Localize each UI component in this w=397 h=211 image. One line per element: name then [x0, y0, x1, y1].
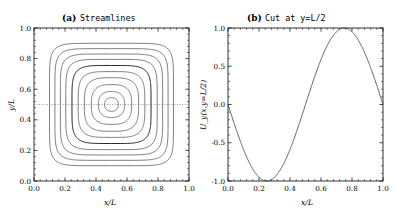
- panel-b-cut: (b) Cut at y=L/2 0.00.20.40.60.81.0-1.0-…: [197, 0, 397, 211]
- x-tick-label: 0.8: [346, 184, 358, 193]
- y-tick-label: 0.8: [20, 54, 32, 63]
- x-tick-label: 0.2: [59, 184, 70, 193]
- x-tick-label: 0.2: [253, 184, 264, 193]
- x-tick-label: 0.4: [90, 184, 102, 193]
- panel-b-plot-area: 0.00.20.40.60.81.0-1.0-0.50.00.51.0: [211, 24, 389, 193]
- panel-b-svg: (b) Cut at y=L/2 0.00.20.40.60.81.0-1.0-…: [197, 0, 397, 211]
- cut-profile-curve: [228, 28, 383, 181]
- y-tick-label: 1.0: [20, 24, 32, 33]
- y-tick-label: -0.5: [211, 138, 225, 147]
- panel-a-ylabel: y/L: [7, 99, 16, 112]
- panel-b-title: Cut at y=L/2: [265, 13, 326, 23]
- panel-a-xlabel: x/L: [104, 198, 116, 207]
- y-tick-label: 0.0: [214, 100, 226, 109]
- y-tick-label: 0.0: [20, 177, 32, 186]
- panel-a-plot-area: 0.00.20.40.60.81.00.00.20.40.60.81.0: [20, 24, 196, 193]
- x-tick-label: 0.8: [152, 184, 164, 193]
- y-tick-label: 0.5: [214, 62, 226, 71]
- x-tick-label: 0.4: [284, 184, 296, 193]
- x-tick-label: 0.6: [121, 184, 133, 193]
- panel-b-xlabel: x/L: [301, 198, 313, 207]
- panel-a-streamlines: (a) Streamlines 0.00.20.40.60.81.00.00.2…: [0, 0, 200, 211]
- panel-b-tag: (b): [247, 13, 262, 23]
- streamline-contour: [78, 72, 145, 138]
- x-tick-label: 1.0: [377, 184, 389, 193]
- panel-b-title-group: (b) Cut at y=L/2: [247, 13, 326, 23]
- y-tick-label: 0.4: [20, 115, 32, 124]
- panel-b-ylabel: U_y(x,y=L/2): [199, 80, 208, 130]
- y-tick-label: -1.0: [211, 177, 225, 186]
- y-tick-label: 0.6: [20, 85, 32, 94]
- y-tick-label: 1.0: [214, 24, 226, 33]
- y-tick-label: 0.2: [20, 146, 31, 155]
- panel-a-title: Streamlines: [80, 13, 135, 23]
- figure-root: (a) Streamlines 0.00.20.40.60.81.00.00.2…: [0, 0, 397, 211]
- x-tick-label: 0.6: [315, 184, 327, 193]
- plot-frame: [34, 28, 189, 181]
- streamline-contour: [105, 98, 119, 112]
- panel-a-tag: (a): [62, 13, 76, 23]
- x-tick-label: 1.0: [183, 184, 195, 193]
- panel-a-title-group: (a) Streamlines: [62, 13, 135, 23]
- panel-a-svg: (a) Streamlines 0.00.20.40.60.81.00.00.2…: [0, 0, 200, 211]
